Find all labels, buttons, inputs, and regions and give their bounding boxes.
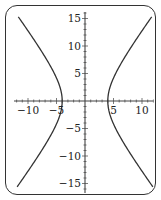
x-tick-label: −10 [17, 104, 39, 116]
y-tick-label: −15 [59, 177, 81, 189]
y-tick-label: −10 [59, 150, 81, 162]
y-tick-label: 15 [68, 12, 81, 24]
x-tick-label: −5 [49, 104, 64, 116]
y-tick-label: 5 [74, 67, 81, 79]
y-tick-label: 10 [68, 40, 81, 52]
hyperbola-plot: −10−551015105−5−10−15 [0, 0, 161, 200]
axes [14, 12, 153, 193]
x-tick-label: 10 [135, 104, 148, 116]
x-tick-label: 5 [110, 104, 117, 116]
y-tick-label: −5 [66, 122, 81, 134]
